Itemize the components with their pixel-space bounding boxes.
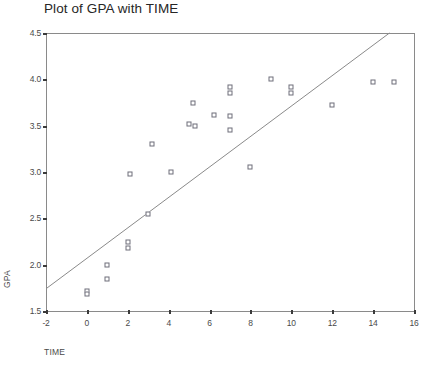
y-tick-label: 4.5 xyxy=(30,28,41,38)
data-point xyxy=(187,121,192,126)
data-point xyxy=(248,165,253,170)
data-point xyxy=(193,123,198,128)
data-point xyxy=(289,91,294,96)
x-tick-label: 2 xyxy=(126,318,131,328)
y-tick-label: 3.5 xyxy=(30,121,41,131)
y-tick-label: 1.5 xyxy=(30,306,41,316)
plot-area: 4.54.03.53.02.52.01.5 -20246810121416 xyxy=(46,33,415,311)
data-point xyxy=(268,77,273,82)
data-point xyxy=(330,103,335,108)
data-point xyxy=(125,239,130,244)
data-point xyxy=(105,262,110,267)
data-point xyxy=(228,91,233,96)
data-point xyxy=(228,84,233,89)
x-tick-label: -2 xyxy=(42,318,49,328)
scatter-plot-figure: Plot of GPA with TIME 4.54.03.53.02.52.0… xyxy=(0,0,446,373)
data-point xyxy=(150,142,155,147)
data-point xyxy=(105,276,110,281)
data-point xyxy=(211,112,216,117)
data-point xyxy=(391,80,396,85)
y-tick-label: 3.0 xyxy=(30,167,41,177)
x-tick-label: 12 xyxy=(328,318,337,328)
chart-title: Plot of GPA with TIME xyxy=(44,1,178,16)
regression-trend-line xyxy=(46,33,415,312)
y-tick-label: 2.0 xyxy=(30,260,41,270)
data-point xyxy=(125,245,130,250)
x-tick-label: 16 xyxy=(409,318,418,328)
x-tick-label: 6 xyxy=(207,318,212,328)
data-point xyxy=(168,170,173,175)
data-point xyxy=(191,100,196,105)
data-point xyxy=(84,292,89,297)
data-point xyxy=(289,84,294,89)
y-tick-label: 2.5 xyxy=(30,213,41,223)
data-point xyxy=(127,171,132,176)
data-point xyxy=(228,128,233,133)
y-tick-label: 4.0 xyxy=(30,74,41,84)
data-point xyxy=(371,80,376,85)
data-point xyxy=(228,114,233,119)
x-tick-label: 8 xyxy=(248,318,253,328)
x-tick-label: 14 xyxy=(369,318,378,328)
data-point xyxy=(146,211,151,216)
y-axis-title: GPA xyxy=(2,270,12,288)
x-tick-label: 0 xyxy=(85,318,90,328)
x-tick-label: 10 xyxy=(287,318,296,328)
x-axis-title: TIME xyxy=(44,347,65,357)
x-tick-label: 4 xyxy=(166,318,171,328)
